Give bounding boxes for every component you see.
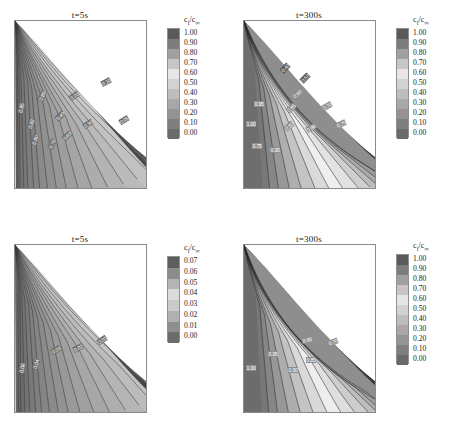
colorbar-top-right: cf/c∞ 1.000.900.800.700.600.500.400.300.… (396, 28, 446, 138)
colorbar-tick: 0.40 (413, 88, 426, 98)
plot-area-bottom-left: 0.06 0.04 0.03 0.02 0.01 (14, 244, 147, 413)
colorbar-tick: 0.90 (413, 38, 426, 48)
colorbar-segment (168, 99, 179, 109)
plot-frame: 0.95 0.90 0.85 0.80 0.70 0.60 0.40 0.30 … (14, 20, 147, 189)
colorbar-segment (397, 39, 408, 49)
colorbar-tick: 0.02 (184, 310, 197, 321)
colorbar-tick: 0.00 (413, 354, 426, 364)
colorbar-tick: 0.05 (184, 278, 197, 289)
contour-label: 1.00 (246, 365, 256, 371)
colorbar-strip (167, 256, 180, 342)
panel-title-bottom-left: t=5s (0, 234, 160, 244)
colorbar-top-left: cf/c∞ 1.000.900.800.700.600.500.400.300.… (167, 28, 217, 138)
colorbar-segment (168, 109, 179, 119)
colorbar-tick: 0.50 (184, 78, 197, 88)
colorbar-strip (167, 28, 180, 138)
colorbar-tick-list: 1.000.900.800.700.600.500.400.300.200.10… (413, 254, 426, 364)
colorbar-title: cf/c∞ (184, 15, 200, 26)
colorbar-segment (397, 99, 408, 109)
panel-top-left: t=5s (0, 0, 229, 223)
colorbar-tick-list: 1.000.900.800.700.600.500.400.300.200.10… (413, 28, 426, 138)
colorbar-segment (168, 332, 179, 343)
contour-field-bottom-right (244, 245, 375, 412)
colorbar-segment (168, 300, 179, 311)
colorbar-segment (168, 69, 179, 79)
colorbar-segment (168, 289, 179, 300)
colorbar-tick: 0.80 (413, 48, 426, 58)
colorbar-segment (168, 257, 179, 268)
panel-title-top-right: t=300s (229, 10, 389, 20)
colorbar-tick: 0.90 (184, 38, 197, 48)
colorbar-strip (396, 254, 409, 364)
colorbar-segment (168, 89, 179, 99)
contour-label: 0.95 (270, 147, 280, 153)
panel-top-right: t=300s (229, 0, 458, 223)
plot-frame: 1.00 0.95 0.75 0.95 0.50 0.85 0.90 0.75 … (243, 20, 376, 189)
contour-label: 0.95 (254, 101, 264, 107)
colorbar-tick: 0.10 (184, 118, 197, 128)
colorbar-tick: 0.04 (184, 288, 197, 299)
contour-label: 0.95 (268, 351, 278, 357)
colorbar-segment (397, 295, 408, 305)
colorbar-tick: 0.00 (184, 128, 197, 138)
colorbar-segment (397, 275, 408, 285)
colorbar-segment (168, 311, 179, 322)
colorbar-segment (397, 305, 408, 315)
colorbar-strip (396, 28, 409, 138)
colorbar-segment (168, 49, 179, 59)
panel-bottom-right: t=300s (229, 224, 458, 447)
colorbar-segment (168, 39, 179, 49)
colorbar-tick: 0.70 (413, 58, 426, 68)
colorbar-tick: 0.06 (184, 267, 197, 278)
colorbar-segment (397, 109, 408, 119)
colorbar-tick: 1.00 (413, 28, 426, 38)
colorbar-segment (168, 59, 179, 69)
colorbar-segment (397, 325, 408, 335)
colorbar-tick: 0.60 (184, 68, 197, 78)
colorbar-segment (397, 315, 408, 325)
colorbar-segment (168, 129, 179, 139)
plot-area-top-right: 1.00 0.95 0.75 0.95 0.50 0.85 0.90 0.75 … (243, 20, 376, 189)
colorbar-tick: 0.03 (184, 299, 197, 310)
colorbar-segment (168, 268, 179, 279)
contour-label: 0.85 (306, 357, 316, 363)
colorbar-tick: 0.60 (413, 68, 426, 78)
colorbar-tick: 0.30 (413, 324, 426, 334)
colorbar-tick: 0.60 (413, 294, 426, 304)
colorbar-segment (397, 265, 408, 275)
colorbar-tick: 0.50 (413, 78, 426, 88)
colorbar-tick: 0.80 (413, 274, 426, 284)
colorbar-segment (397, 59, 408, 69)
colorbar-tick: 0.10 (413, 118, 426, 128)
colorbar-segment (397, 129, 408, 139)
colorbar-segment (168, 279, 179, 290)
colorbar-tick: 0.10 (413, 344, 426, 354)
colorbar-segment (168, 29, 179, 39)
colorbar-tick: 0.20 (413, 108, 426, 118)
plot-area-bottom-right: 1.00 0.95 0.90 0.85 0.80 0.70 (243, 244, 376, 413)
colorbar-tick: 0.40 (184, 88, 197, 98)
colorbar-title: cf/c∞ (413, 241, 429, 252)
colorbar-tick: 0.70 (184, 58, 197, 68)
colorbar-segment (397, 69, 408, 79)
colorbar-tick: 0.00 (413, 128, 426, 138)
colorbar-segment (397, 29, 408, 39)
colorbar-tick: 0.20 (413, 334, 426, 344)
plot-frame: 1.00 0.95 0.90 0.85 0.80 0.70 (243, 244, 376, 413)
colorbar-segment (397, 119, 408, 129)
colorbar-segment (168, 322, 179, 333)
colorbar-segment (397, 89, 408, 99)
colorbar-tick: 0.80 (184, 48, 197, 58)
plot-frame: 0.06 0.04 0.03 0.02 0.01 (14, 244, 147, 413)
contour-field-top-left (15, 21, 146, 188)
contour-label: 0.75 (252, 143, 262, 149)
colorbar-tick: 0.50 (413, 304, 426, 314)
colorbar-tick: 0.01 (184, 321, 197, 332)
colorbar-tick: 1.00 (413, 254, 426, 264)
plot-area-top-left: 0.95 0.90 0.85 0.80 0.70 0.60 0.40 0.30 … (14, 20, 147, 189)
colorbar-bottom-left: cf/c∞ 0.070.060.050.040.030.020.010.00 (167, 256, 217, 342)
colorbar-segment (397, 335, 408, 345)
panel-title-top-left: t=5s (0, 10, 160, 20)
colorbar-segment (397, 345, 408, 355)
colorbar-segment (397, 49, 408, 59)
